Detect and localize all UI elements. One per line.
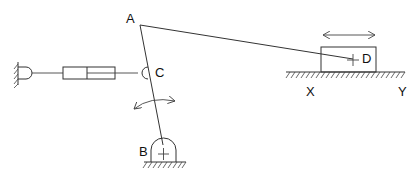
ground-track bbox=[286, 72, 405, 78]
label-d: D bbox=[362, 51, 371, 66]
pin-c bbox=[142, 67, 148, 79]
label-a: A bbox=[126, 11, 135, 26]
pivot-support-b bbox=[143, 138, 186, 168]
cylinder-actuator bbox=[63, 67, 115, 79]
label-b: B bbox=[139, 144, 148, 159]
label-c: C bbox=[155, 65, 164, 80]
rocker-link-ab bbox=[140, 25, 163, 145]
label-x: X bbox=[306, 84, 315, 99]
mechanism-diagram: A C B D X Y bbox=[0, 0, 420, 182]
fixed-wall bbox=[14, 62, 18, 88]
wall-pin bbox=[18, 67, 32, 79]
label-y: Y bbox=[398, 84, 407, 99]
